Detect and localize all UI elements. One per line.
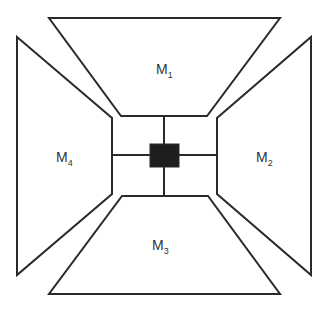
label-m4-base: M [56, 149, 68, 165]
mirror-diagram: M1 M2 M3 M4 [0, 0, 326, 312]
label-m1-sub: 1 [168, 70, 173, 80]
label-m4-sub: 4 [68, 158, 73, 168]
label-m1-base: M [156, 61, 168, 77]
label-m2-base: M [256, 149, 268, 165]
central-hub [150, 144, 179, 167]
label-m2-sub: 2 [268, 158, 273, 168]
label-m3-sub: 3 [164, 246, 169, 256]
label-m3-base: M [152, 237, 164, 253]
